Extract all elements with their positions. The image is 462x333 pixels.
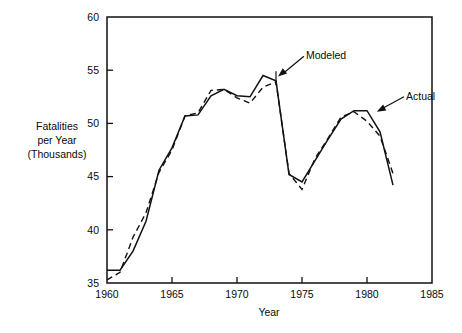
- y-tick-label-50: 50: [87, 117, 99, 129]
- y-tick-label-55: 55: [87, 64, 99, 76]
- chart-annotations: ModeledActual: [276, 49, 435, 111]
- x-tick-label-1985: 1985: [420, 288, 444, 300]
- y-axis-title-line-3: (Thousands): [28, 148, 87, 160]
- y-axis-title-line-2: per Year: [37, 134, 77, 146]
- annotation-leader-modeled: [283, 56, 304, 73]
- plot-frame: [107, 17, 432, 283]
- x-axis-tick-labels: 196019651970197519801985: [95, 288, 444, 300]
- annotation-label-actual: Actual: [406, 90, 435, 102]
- x-axis-title: Year: [258, 306, 280, 318]
- chart-figure: 354045505560 196019651970197519801985 Mo…: [0, 0, 462, 333]
- y-tick-label-40: 40: [87, 224, 99, 236]
- y-axis-title-line-1: Fatalities: [36, 120, 78, 132]
- annotation-arrow-actual: [377, 104, 387, 111]
- y-tick-label-35: 35: [87, 277, 99, 289]
- x-tick-label-1980: 1980: [355, 288, 379, 300]
- y-axis-title: Fatalities per Year (Thousands): [28, 120, 87, 160]
- x-tick-label-1970: 1970: [225, 288, 249, 300]
- x-tick-label-1965: 1965: [160, 288, 184, 300]
- annotation-label-modeled: Modeled: [306, 49, 346, 61]
- y-axis-tick-labels: 354045505560: [87, 11, 99, 289]
- y-axis-ticks: [107, 70, 113, 230]
- y-tick-label-60: 60: [87, 11, 99, 23]
- x-axis-ticks: [172, 277, 367, 283]
- series-line-actual: [107, 76, 393, 271]
- series-line-modeled: [107, 82, 393, 280]
- annotation-leader-actual: [382, 97, 404, 109]
- annotation-arrow-modeled: [278, 68, 287, 76]
- fatalities-line-chart: 354045505560 196019651970197519801985 Mo…: [0, 0, 462, 333]
- x-tick-label-1975: 1975: [290, 288, 314, 300]
- x-tick-label-1960: 1960: [95, 288, 119, 300]
- y-tick-label-45: 45: [87, 170, 99, 182]
